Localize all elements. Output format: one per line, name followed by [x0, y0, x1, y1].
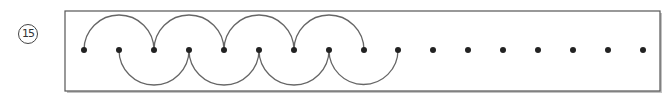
- dot: [221, 47, 227, 53]
- dot: [465, 47, 471, 53]
- dot: [151, 47, 157, 53]
- dot: [256, 47, 262, 53]
- dot: [81, 47, 87, 53]
- dot: [535, 47, 541, 53]
- dot: [500, 47, 506, 53]
- dot: [605, 47, 611, 53]
- dot: [640, 47, 646, 53]
- arc-pattern-diagram: [0, 0, 669, 100]
- dot: [116, 47, 122, 53]
- dot: [430, 47, 436, 53]
- dot: [570, 47, 576, 53]
- dot: [186, 47, 192, 53]
- dot: [395, 47, 401, 53]
- dot: [326, 47, 332, 53]
- dot: [361, 47, 367, 53]
- dot: [291, 47, 297, 53]
